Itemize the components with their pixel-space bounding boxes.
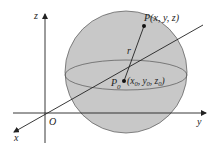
origin-label: O (49, 116, 56, 127)
x-axis-label: x (13, 132, 19, 143)
y-axis-label: y (196, 116, 202, 127)
sphere (65, 11, 187, 133)
point-P (142, 24, 146, 28)
point-P-label: P(x, y, z) (143, 12, 180, 24)
radius-label: r (127, 45, 131, 56)
sphere-diagram: z y x O P(x, y, z) r P0 (x0, y0, z0) (0, 0, 215, 150)
point-P0 (122, 79, 126, 83)
z-axis-label: z (33, 10, 38, 21)
